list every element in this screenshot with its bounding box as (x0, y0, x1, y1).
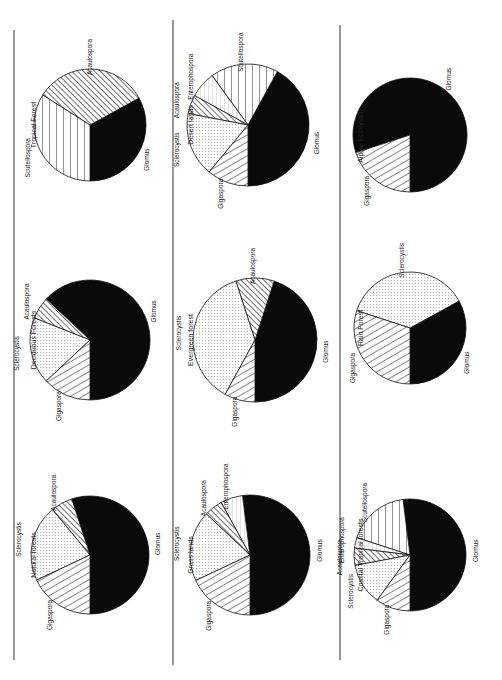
chart-title: Tropical Forest (30, 102, 38, 148)
slice-label: Glomus (322, 340, 329, 363)
chart-title: Natural forests (30, 532, 37, 578)
slice-label: Gigaspora (46, 600, 54, 630)
pie-deciduous: GlomusAcaulosporaSclerocystisGigasporaDe… (13, 280, 157, 421)
slice-label: Glomus (313, 131, 320, 154)
pie-rain: GlomusSclerocystisGigasporaRain Forest (349, 242, 470, 384)
slice-label: Sclerocystis (13, 335, 21, 370)
slice-label: Sclerocystis (173, 132, 181, 167)
slice-label: Sclerocystis (173, 526, 181, 561)
slice-label: Acaulospora (200, 480, 208, 517)
slice-label: Gigaspora (383, 604, 391, 634)
pie-chart-figure: GlomusAcaulosporaScutellosporaTropical F… (0, 0, 502, 680)
chart-title: Deciduous Forests (30, 310, 37, 369)
pie-tropical: GlomusAcaulosporaScutellosporaTropical F… (24, 39, 149, 181)
slice-label: Sclerocystis (175, 315, 183, 350)
chart-title: Desert lands (187, 105, 194, 145)
slice-label: Acaulospora (50, 474, 58, 511)
slice-label: Acaulospora (86, 39, 94, 76)
pie-evergreen: GlomusAcaulosporaSclerocystisGigasporaEv… (175, 248, 329, 427)
slice-label: Glomus (463, 351, 470, 374)
slice-label: Gigaspora (349, 353, 357, 383)
slice-label: Scutellospora (237, 32, 245, 72)
slice-label: Gigaspora (205, 600, 213, 630)
chart-title: Rain Forest (357, 310, 364, 346)
slice-label: Gigaspora (55, 391, 63, 421)
slice-label: Enterophospora (187, 53, 195, 100)
slice-label: Sclerocystis (15, 521, 23, 556)
chart-title: Alpine Ecosystem (357, 107, 365, 163)
slice-label: Scutellospora (361, 483, 369, 523)
slice-label: Enterophospora (222, 463, 230, 510)
pie-natural: GlomusAcaulosporaSclerocystisGigasporaNa… (15, 474, 161, 630)
slice-label: Gigaspora (217, 178, 225, 208)
slice-glomus (403, 499, 466, 611)
slice-label: Glomus (445, 67, 452, 90)
pie-grass: GlomusEnterophosporaAcaulosporaSclerocys… (173, 463, 323, 631)
chart-title: Coastal Tropical forests (357, 518, 365, 592)
slice-label: Acaulospora (173, 82, 181, 119)
chart-title: Grass lands (187, 536, 194, 574)
slice-label: Glomus (143, 148, 150, 171)
slice-label: Glomus (150, 299, 157, 322)
slice-label: Sclerocystis (347, 573, 355, 608)
slice-label: Sclerocystis (398, 242, 406, 277)
slice-label: Gigaspora (231, 396, 239, 426)
slice-glomus (242, 495, 310, 615)
slice-label: Glomus (154, 532, 161, 555)
pie-coastal: GlomusScutellosporaEnterophosporaAcaulos… (336, 483, 479, 635)
pie-alpine: GlomusGigasporaAlpine Ecosystem (353, 67, 467, 206)
chart-title: Evergreen forest (187, 314, 195, 366)
slice-label: Glomus (316, 539, 323, 562)
slice-label: Acaulospora (249, 248, 257, 285)
pie-desert: GlomusScutellosporaEnterophosporaAcaulos… (173, 32, 319, 209)
slice-label: Acaulospora (336, 539, 344, 576)
slice-label: Glomus (472, 539, 479, 562)
slice-label: Gigaspora (363, 175, 371, 205)
